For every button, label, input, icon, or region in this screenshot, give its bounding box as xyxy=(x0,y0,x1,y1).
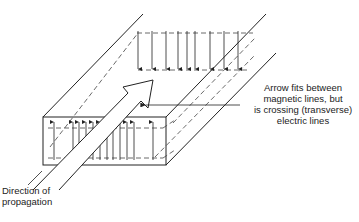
waveguide-outline xyxy=(43,14,276,165)
callout-line-1: Arrow fits between xyxy=(248,82,358,93)
callout-line-4: electric lines xyxy=(248,115,358,126)
direction-annotation: Direction of propagation xyxy=(2,185,52,207)
callout-line-2: magnetic lines, but xyxy=(248,93,358,104)
callout-line-3: is crossing (transverse) xyxy=(248,104,358,115)
top-electric-lines xyxy=(138,31,238,69)
direction-line-2: propagation xyxy=(2,196,52,207)
propagation-arrow xyxy=(33,80,153,190)
callout-annotation: Arrow fits between magnetic lines, but i… xyxy=(248,82,358,126)
direction-line-1: Direction of xyxy=(2,185,52,196)
